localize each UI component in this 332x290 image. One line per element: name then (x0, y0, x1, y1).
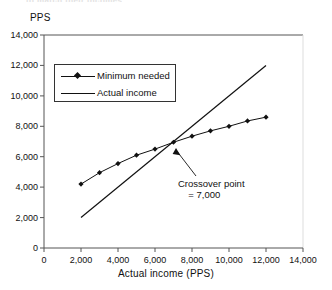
y-tick-label-0: 0 (0, 243, 38, 253)
data-point-marker (97, 170, 102, 175)
y-tick-label-10000: 10,000 (0, 91, 38, 101)
y-tick-label-8000: 8,000 (0, 121, 38, 131)
series-line-minimum-needed (81, 117, 266, 184)
y-tick-label-14000: 14,000 (0, 30, 38, 40)
x-tick-marks (44, 248, 303, 252)
data-point-marker (226, 124, 231, 129)
line-swatch-icon (61, 87, 95, 99)
x-axis-title: Actual income (PPS) (0, 268, 332, 279)
data-point-marker (78, 182, 83, 187)
legend-entry-minimum-needed: Minimum needed (61, 67, 170, 84)
data-point-marker (134, 153, 139, 158)
data-point-marker (152, 147, 157, 152)
legend-label-actual-income: Actual income (95, 87, 157, 98)
annotation-arrow (173, 148, 196, 176)
plot-area (0, 0, 332, 290)
y-tick-marks (40, 35, 44, 248)
chart-figure: to match their incomes PPS (0, 0, 332, 290)
data-point-marker (189, 134, 194, 139)
chart-legend: Minimum needed Actual income (54, 64, 176, 102)
legend-entry-actual-income: Actual income (61, 84, 157, 101)
data-point-marker (208, 128, 213, 133)
x-tick-label-14000: 14,000 (282, 255, 324, 265)
crossover-annotation-line2: = 7,000 (178, 189, 245, 200)
series-markers-minimum-needed (78, 115, 268, 187)
x-tick-label-6000: 6,000 (134, 255, 176, 265)
y-tick-label-6000: 6,000 (0, 152, 38, 162)
x-tick-label-2000: 2,000 (60, 255, 102, 265)
crossover-annotation-line1: Crossover point (178, 178, 245, 189)
data-point-marker (115, 161, 120, 166)
diamond-marker-icon (61, 70, 95, 82)
y-tick-label-12000: 12,000 (0, 60, 38, 70)
x-tick-label-0: 0 (23, 255, 65, 265)
x-tick-label-4000: 4,000 (97, 255, 139, 265)
legend-label-minimum-needed: Minimum needed (95, 70, 170, 81)
y-tick-label-2000: 2,000 (0, 213, 38, 223)
x-tick-label-10000: 10,000 (208, 255, 250, 265)
x-tick-label-12000: 12,000 (245, 255, 287, 265)
crossover-annotation: Crossover point = 7,000 (178, 178, 245, 200)
x-tick-label-8000: 8,000 (171, 255, 213, 265)
y-tick-label-4000: 4,000 (0, 182, 38, 192)
data-point-marker (245, 118, 250, 123)
data-point-marker (263, 115, 268, 120)
